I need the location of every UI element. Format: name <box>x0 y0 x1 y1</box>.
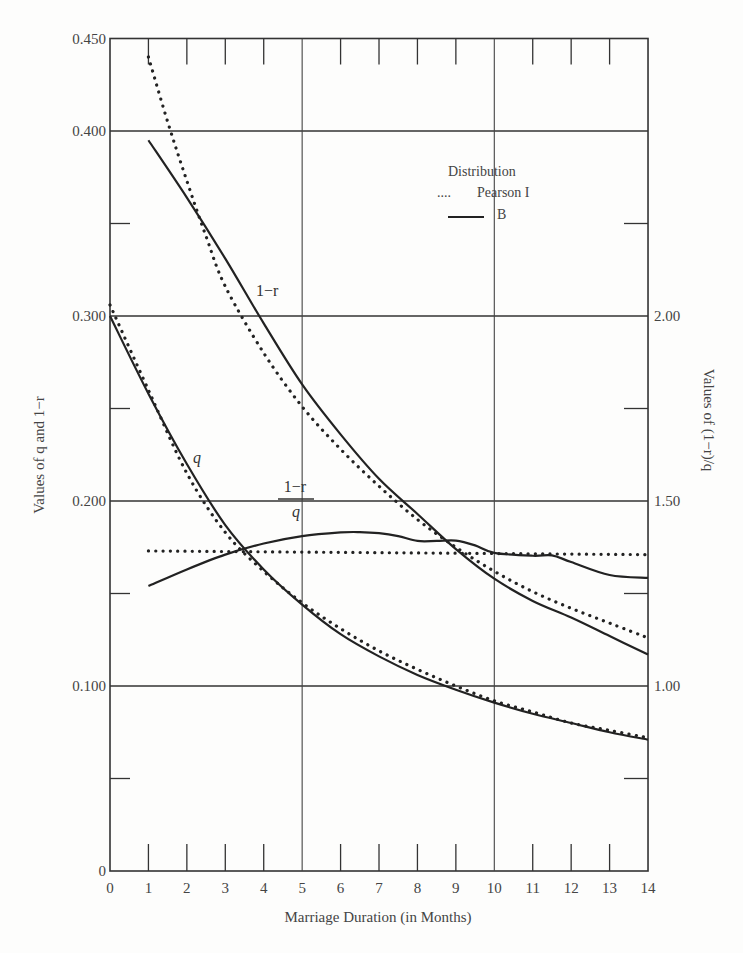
y-left-tick-label: 0.400 <box>72 123 106 139</box>
y-left-tick-label: 0 <box>99 863 107 879</box>
y-right-tick-label: 1.00 <box>654 678 680 694</box>
x-tick-label: 8 <box>414 880 422 896</box>
series-r-pearson-i <box>148 57 648 638</box>
x-tick-label: 14 <box>641 880 657 896</box>
x-tick-label: 9 <box>452 880 460 896</box>
label-ratio-denominator: q <box>292 503 300 521</box>
y-axis-right-title: Values of (1−r)/q <box>700 369 717 472</box>
series-r-q-b <box>148 532 648 586</box>
x-tick-label: 11 <box>526 880 540 896</box>
y-left-tick-label: 0.450 <box>72 31 106 47</box>
x-tick-label: 1 <box>145 880 153 896</box>
tick-labels: 0123456789101112131400.1000.2000.3000.40… <box>72 31 680 897</box>
x-tick-label: 0 <box>106 880 114 896</box>
y-axis-left-title: Values of q and 1−r <box>31 396 47 514</box>
series-r-b <box>148 140 648 654</box>
grid-lines <box>110 39 648 872</box>
chart-figure: 0123456789101112131400.1000.2000.3000.40… <box>0 0 743 953</box>
legend-label-b: B <box>497 207 506 222</box>
legend: Distribution .... Pearson I B <box>437 164 530 222</box>
label-ratio-numerator: 1−r <box>284 478 307 495</box>
plot-border <box>110 39 648 872</box>
legend-label-pearson: Pearson I <box>477 185 530 200</box>
y-left-tick-label: 0.100 <box>72 678 106 694</box>
y-left-tick-label: 0.200 <box>72 493 106 509</box>
label-one-minus-r: 1−r <box>256 282 279 299</box>
legend-title: Distribution <box>448 164 516 179</box>
label-q: q <box>193 449 201 467</box>
plot-frame <box>110 39 648 872</box>
series-q-pearson-i <box>110 305 648 738</box>
x-tick-label: 13 <box>602 880 617 896</box>
x-tick-label: 12 <box>564 880 579 896</box>
x-tick-label: 7 <box>375 880 383 896</box>
axis-ticks <box>110 39 648 872</box>
legend-marker-pearson: .... <box>437 185 451 200</box>
x-axis-title: Marriage Duration (in Months) <box>284 909 471 926</box>
y-right-tick-label: 2.00 <box>654 308 680 324</box>
x-tick-label: 3 <box>222 880 230 896</box>
series-q-b <box>110 316 648 740</box>
x-tick-label: 10 <box>487 880 502 896</box>
curve-annotations: 1−r q 1−r q <box>193 282 314 521</box>
x-tick-label: 4 <box>260 880 268 896</box>
y-left-tick-label: 0.300 <box>72 308 106 324</box>
x-tick-label: 6 <box>337 880 345 896</box>
data-series <box>110 57 648 740</box>
x-tick-label: 2 <box>183 880 191 896</box>
series-r-q-pearson-i <box>148 551 648 555</box>
y-right-tick-label: 1.50 <box>654 493 680 509</box>
x-tick-label: 5 <box>298 880 306 896</box>
